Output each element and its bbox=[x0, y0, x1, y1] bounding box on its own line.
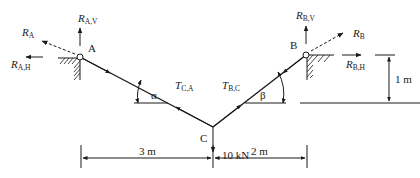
reaction-ra-arrow bbox=[42, 41, 75, 54]
point-b-label: B bbox=[290, 39, 297, 51]
pin-a bbox=[77, 54, 83, 60]
label-ra: RA bbox=[21, 26, 35, 40]
label-rb-v: RB,V bbox=[295, 9, 316, 23]
support-a bbox=[58, 58, 80, 80]
label-rb: RB bbox=[352, 27, 365, 41]
pin-b bbox=[303, 52, 309, 58]
label-ra-v: RA,V bbox=[77, 12, 98, 26]
reaction-rb-arrow bbox=[311, 33, 343, 51]
point-c-label: C bbox=[200, 132, 207, 144]
point-a-label: A bbox=[88, 42, 96, 54]
tension-arrow-bc bbox=[213, 105, 241, 127]
tension-arrow-a bbox=[80, 57, 110, 73]
label-tension-ca: TC,A bbox=[175, 79, 194, 93]
label-rb-h: RB,H bbox=[345, 58, 366, 72]
angle-beta-label: β bbox=[260, 89, 266, 101]
tension-arrow-b bbox=[283, 55, 306, 73]
dim-right-label: 2 m bbox=[251, 145, 268, 157]
label-ra-h: RA,H bbox=[10, 58, 31, 72]
tension-arrow-ca bbox=[176, 107, 213, 127]
cable-diagram: A B C RA RA,V RA,H RB,V RB RB,H TC,A TB,… bbox=[0, 0, 420, 178]
alpha-arc bbox=[137, 80, 141, 103]
label-tension-bc: TB,C bbox=[222, 79, 240, 93]
dim-height-label: 1 m bbox=[395, 73, 412, 85]
angle-alpha-label: α bbox=[151, 89, 157, 101]
dim-left-label: 3 m bbox=[139, 145, 156, 157]
load-label: 10 kN bbox=[222, 149, 249, 161]
support-b bbox=[306, 55, 334, 80]
